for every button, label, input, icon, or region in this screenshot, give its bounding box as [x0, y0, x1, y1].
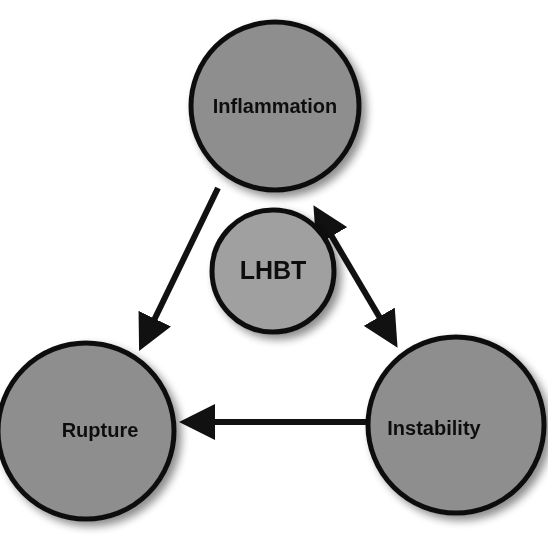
lhbt-diagram: Inflammation LHBT Rupture Instability: [0, 0, 548, 543]
node-inflammation: Inflammation: [191, 22, 359, 190]
node-label-instability: Instability: [387, 417, 481, 439]
node-instability: Instability: [368, 337, 544, 513]
node-label-lhbt: LHBT: [240, 256, 307, 284]
arrow-inflammation-to-rupture: [143, 188, 218, 343]
node-lhbt: LHBT: [212, 210, 334, 332]
node-label-inflammation: Inflammation: [213, 95, 337, 117]
node-label-rupture: Rupture: [62, 419, 139, 441]
node-rupture: Rupture: [0, 343, 174, 519]
